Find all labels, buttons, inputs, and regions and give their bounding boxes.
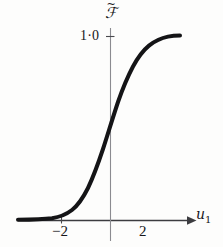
- x-axis-title: u1: [196, 207, 211, 225]
- x-axis-title-subscript: 1: [205, 214, 211, 225]
- sigmoid-curve: [18, 36, 180, 220]
- tilde-accent-icon: ~: [106, 0, 115, 10]
- sigmoid-cdf-figure: ~ ℱ 1·0 −2 2 u1: [0, 0, 223, 247]
- x-tick-label-pos2: 2: [139, 224, 147, 239]
- y-tick-label-1-0: 1·0: [80, 29, 99, 43]
- x-tick-label-neg2: −2: [52, 224, 68, 239]
- y-axis-title: ~ ℱ: [105, 6, 117, 21]
- x-axis-title-letter: u: [196, 206, 205, 222]
- plot-canvas: [0, 0, 223, 247]
- y-axis-title-stack: ~ ℱ: [105, 6, 117, 21]
